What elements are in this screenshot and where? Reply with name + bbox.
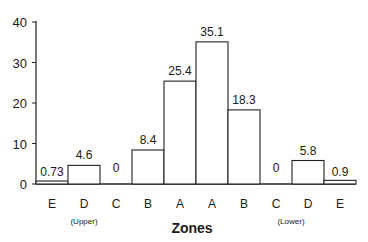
- x-axis-title: Zones: [171, 220, 212, 236]
- x-category-labels: EDCBAABCDE: [48, 197, 344, 211]
- y-tick-label: 40: [13, 15, 27, 30]
- x-category-label: D: [80, 197, 89, 211]
- bar-value-label: 8.4: [140, 133, 157, 147]
- bar-value-label: 35.1: [200, 25, 224, 39]
- bar-value-label: 5.8: [300, 144, 317, 158]
- bar-value-label: 0: [273, 161, 280, 175]
- y-tick-label: 0: [20, 177, 27, 192]
- bar-value-label: 18.3: [232, 93, 256, 107]
- x-category-label: B: [144, 197, 152, 211]
- x-category-label: A: [176, 197, 184, 211]
- bar-value-label: 0.73: [40, 165, 64, 179]
- bar-value-label: 4.6: [76, 148, 93, 162]
- bar: [292, 161, 324, 184]
- bar: [164, 81, 196, 184]
- x-category-label: B: [240, 197, 248, 211]
- bar: [132, 150, 164, 184]
- bar-value-label: 0.9: [332, 165, 349, 179]
- x-category-label: D: [304, 197, 313, 211]
- bar-chart: 010203040 0.734.608.425.435.118.305.80.9…: [0, 0, 368, 242]
- x-category-label: E: [48, 197, 56, 211]
- x-category-label: C: [272, 197, 281, 211]
- bar: [228, 110, 260, 184]
- bar-value-label: 25.4: [168, 64, 192, 78]
- lower-group-label: (Lower): [277, 217, 304, 226]
- x-category-label: E: [336, 197, 344, 211]
- x-category-label: C: [112, 197, 121, 211]
- y-tick-label: 20: [13, 96, 27, 111]
- bar: [36, 181, 68, 184]
- bar: [196, 42, 228, 184]
- y-tick-label: 10: [13, 137, 27, 152]
- bar: [324, 180, 356, 184]
- x-category-label: A: [208, 197, 216, 211]
- upper-group-label: (Upper): [70, 217, 97, 226]
- bars: [36, 42, 356, 184]
- y-tick-label: 30: [13, 56, 27, 71]
- bar-value-label: 0: [113, 161, 120, 175]
- bar: [68, 165, 100, 184]
